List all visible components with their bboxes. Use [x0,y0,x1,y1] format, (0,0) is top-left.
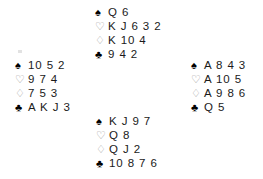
bridge-deal-diagram: ♠ Q 6 ♡ K J 6 3 2 ♢ K 10 4 ♣ 9 4 2 ♠ 10 … [0,0,263,179]
suit-row-south-clubs: ♣ 10 8 7 6 [96,156,158,170]
suit-row-west-diamonds: ♢ 7 5 3 [15,86,71,100]
south-hearts-cards: Q 8 [109,128,130,142]
club-icon: ♣ [96,156,109,170]
club-icon: ♣ [15,100,28,114]
diamond-icon: ♢ [96,142,109,156]
west-hearts-cards: 9 7 4 [28,72,58,86]
suit-row-north-clubs: ♣ 9 4 2 [95,47,162,61]
north-spades-cards: Q 6 [108,5,129,19]
suit-row-north-diamonds: ♢ K 10 4 [95,33,162,47]
heart-icon: ♡ [96,128,109,142]
club-icon: ♣ [191,100,204,114]
suit-row-west-hearts: ♡ 9 7 4 [15,72,71,86]
suit-row-east-clubs: ♣ Q 5 [191,100,246,114]
suit-row-west-spades: ♠ 10 5 2 [15,58,71,72]
diamond-icon: ♢ [15,86,28,100]
north-diamonds-cards: K 10 4 [108,33,147,47]
spade-icon: ♠ [15,58,28,72]
suit-row-south-hearts: ♡ Q 8 [96,128,158,142]
suit-row-south-diamonds: ♢ Q J 2 [96,142,158,156]
east-spades-cards: A 8 4 3 [204,58,246,72]
suit-row-north-hearts: ♡ K J 6 3 2 [95,19,162,33]
spade-icon: ♠ [96,114,109,128]
heart-icon: ♡ [95,19,108,33]
hand-south: ♠ K J 9 7 ♡ Q 8 ♢ Q J 2 ♣ 10 8 7 6 [96,114,158,170]
hand-east: ♠ A 8 4 3 ♡ A 10 5 ♢ A 9 8 6 ♣ Q 5 [191,58,246,114]
east-hearts-cards: A 10 5 [204,72,242,86]
suit-row-north-spades: ♠ Q 6 [95,5,162,19]
spade-icon: ♠ [95,5,108,19]
south-diamonds-cards: Q J 2 [109,142,141,156]
diamond-icon: ♢ [95,33,108,47]
east-clubs-cards: Q 5 [204,100,225,114]
hand-north: ♠ Q 6 ♡ K J 6 3 2 ♢ K 10 4 ♣ 9 4 2 [95,5,162,61]
north-clubs-cards: 9 4 2 [108,47,138,61]
west-clubs-cards: A K J 3 [28,100,71,114]
suit-row-west-clubs: ♣ A K J 3 [15,100,71,114]
south-clubs-cards: 10 8 7 6 [109,156,158,170]
heart-icon: ♡ [15,72,28,86]
suit-row-south-spades: ♠ K J 9 7 [96,114,158,128]
east-diamonds-cards: A 9 8 6 [204,86,246,100]
club-icon: ♣ [95,47,108,61]
spade-icon: ♠ [191,58,204,72]
hand-west: ♠ 10 5 2 ♡ 9 7 4 ♢ 7 5 3 ♣ A K J 3 [15,58,71,114]
suit-row-east-spades: ♠ A 8 4 3 [191,58,246,72]
north-hearts-cards: K J 6 3 2 [108,19,162,33]
suit-row-east-hearts: ♡ A 10 5 [191,72,246,86]
heart-icon: ♡ [191,72,204,86]
suit-row-east-diamonds: ♢ A 9 8 6 [191,86,246,100]
scan-artifact-speck [18,50,22,53]
west-spades-cards: 10 5 2 [28,58,65,72]
south-spades-cards: K J 9 7 [109,114,151,128]
west-diamonds-cards: 7 5 3 [28,86,58,100]
diamond-icon: ♢ [191,86,204,100]
